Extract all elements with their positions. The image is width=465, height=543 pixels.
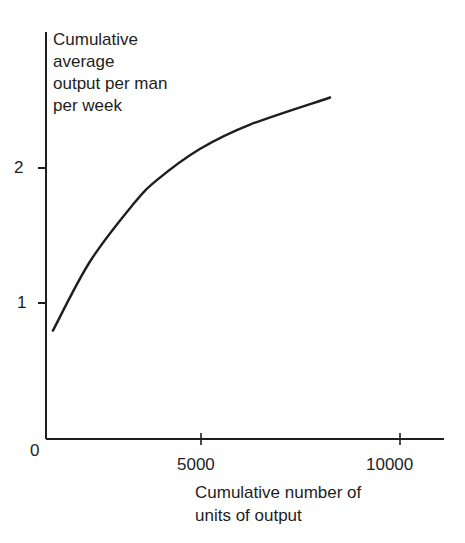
x-axis-label-line: units of output (195, 505, 302, 527)
y-tick-label-2: 2 (14, 158, 23, 178)
y-axis-label-line: output per man (53, 73, 167, 95)
y-axis-label-line: per week (53, 95, 122, 117)
y-axis-label-line: Cumulative (53, 29, 138, 51)
origin-label: 0 (30, 441, 39, 461)
x-tick-label-5000: 5000 (177, 455, 215, 475)
y-axis-label-line: average (53, 51, 114, 73)
y-tick-label-1: 1 (17, 293, 26, 313)
x-tick-label-10000: 10000 (366, 455, 413, 475)
x-axis-label-line: Cumulative number of (195, 482, 361, 504)
learning-curve-line (53, 98, 330, 331)
